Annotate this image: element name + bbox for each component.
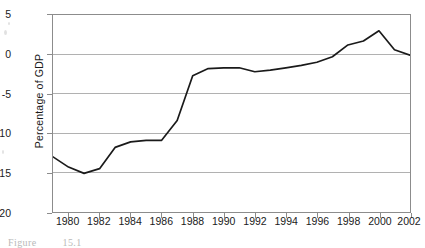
y-tick-label: -5 [0,88,11,100]
scan-speck [2,150,4,154]
y-tick-mark [47,213,52,214]
y-tick-mark [47,94,52,95]
figure-container: Percentage of GDP 5 0 -5 -10 -15 -20 198… [0,0,425,248]
series-polyline [53,31,410,174]
y-tick-label: 0 [0,48,11,60]
scan-speck [8,22,10,25]
y-tick-mark [47,133,52,134]
y-tick-label: 5 [0,8,11,20]
y-tick-mark [47,14,52,15]
plot-area [52,14,411,213]
figure-caption: Figure15.1 [8,237,82,248]
x-tick-label: 2002 [389,215,425,227]
y-tick-label: -10 [0,127,11,139]
caption-label: Figure [8,237,37,248]
y-tick-label: -20 [0,207,11,219]
y-axis-label: Percentage of GDP [33,31,45,171]
y-tick-mark [47,173,52,174]
scan-speck [4,30,7,35]
y-tick-label: -15 [0,167,11,179]
y-tick-mark [47,54,52,55]
caption-number: 15.1 [63,237,82,248]
data-line-series [53,15,410,212]
